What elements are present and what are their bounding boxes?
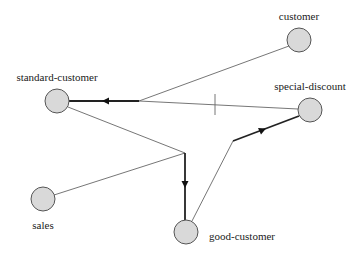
- edge-segment-good-customer: [192, 141, 233, 221]
- node-special-discount[interactable]: special-discount: [274, 80, 345, 122]
- node-label-good-customer: good-customer: [209, 230, 275, 242]
- node-circle-good-customer[interactable]: [174, 220, 198, 244]
- edge-to-special-discount: [192, 116, 299, 221]
- edge-segment-special-discount: [139, 101, 298, 109]
- node-circle-special-discount[interactable]: [298, 98, 322, 122]
- node-sales[interactable]: sales: [31, 187, 55, 231]
- node-customer[interactable]: customer: [279, 10, 320, 52]
- edge-segment-sales: [54, 153, 185, 195]
- node-label-sales: sales: [32, 219, 53, 231]
- node-standard-customer[interactable]: standard-customer: [16, 71, 98, 113]
- edge-to-good-customer: [54, 107, 189, 220]
- arrow-head-icon: [182, 181, 189, 188]
- node-circle-customer[interactable]: [287, 28, 311, 52]
- arrow-head-icon: [102, 98, 109, 105]
- node-circle-standard-customer[interactable]: [45, 89, 69, 113]
- node-label-standard-customer: standard-customer: [16, 71, 98, 83]
- edge-to-standard-customer: [69, 46, 298, 115]
- edge-segment-standard-customer: [68, 107, 185, 153]
- edge-segment-customer: [139, 46, 289, 101]
- hypergraph-diagram: customer standard-customer special-disco…: [0, 0, 359, 255]
- node-good-customer[interactable]: good-customer: [174, 220, 275, 244]
- node-circle-sales[interactable]: [31, 187, 55, 211]
- node-label-customer: customer: [279, 10, 320, 22]
- node-label-special-discount: special-discount: [274, 80, 345, 92]
